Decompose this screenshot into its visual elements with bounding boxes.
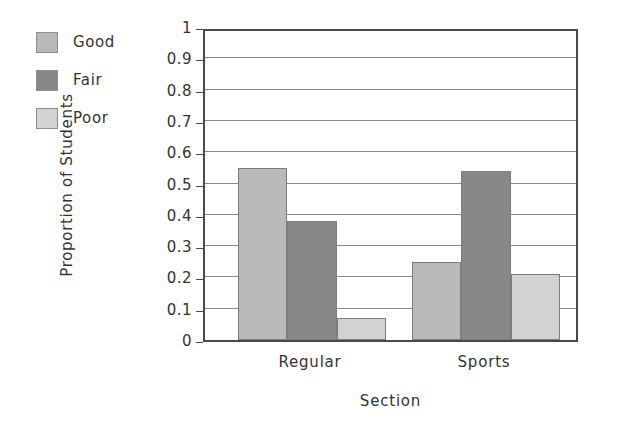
y-tick-label: 0.4 bbox=[122, 207, 192, 225]
y-tick-mark bbox=[196, 248, 203, 249]
bar-poor-sports bbox=[511, 274, 560, 340]
y-tick-label: 0.1 bbox=[122, 301, 192, 319]
legend-swatch-fair bbox=[36, 70, 58, 91]
bar-good-regular bbox=[238, 168, 287, 340]
x-tick-label-sports: Sports bbox=[410, 353, 558, 371]
legend-label-good: Good bbox=[73, 33, 115, 51]
y-tick-mark bbox=[196, 279, 203, 280]
y-tick-label: 0.7 bbox=[122, 113, 192, 131]
y-tick-mark bbox=[196, 342, 203, 343]
legend-swatch-good bbox=[36, 32, 58, 53]
y-tick-mark bbox=[196, 217, 203, 218]
y-tick-label: 0.3 bbox=[122, 238, 192, 256]
plot-area bbox=[203, 29, 578, 342]
bar-fair-sports bbox=[461, 171, 510, 340]
y-tick-mark bbox=[196, 186, 203, 187]
y-tick-label: 0.6 bbox=[122, 144, 192, 162]
y-tick-label: 0.8 bbox=[122, 82, 192, 100]
bar-chart: Good Fair Poor Proportion of Students 10… bbox=[0, 0, 622, 426]
y-tick-mark bbox=[196, 29, 203, 30]
y-tick-mark bbox=[196, 311, 203, 312]
y-tick-mark bbox=[196, 92, 203, 93]
y-tick-label: 0.5 bbox=[122, 176, 192, 194]
bar-series-container bbox=[205, 31, 576, 340]
legend-swatch-poor bbox=[36, 108, 58, 129]
legend-label-poor: Poor bbox=[73, 109, 108, 127]
legend-label-fair: Fair bbox=[73, 71, 102, 89]
bar-poor-regular bbox=[337, 318, 386, 340]
y-axis-title: Proportion of Students bbox=[58, 60, 76, 310]
x-tick-label-regular: Regular bbox=[236, 353, 384, 371]
y-tick-label: 1 bbox=[122, 19, 192, 37]
y-tick-mark bbox=[196, 154, 203, 155]
y-tick-mark bbox=[196, 60, 203, 61]
bar-fair-regular bbox=[287, 221, 336, 340]
y-tick-label: 0.9 bbox=[122, 50, 192, 68]
y-tick-label: 0.2 bbox=[122, 269, 192, 287]
y-tick-label: 0 bbox=[122, 332, 192, 350]
y-tick-mark bbox=[196, 123, 203, 124]
x-axis-title: Section bbox=[203, 392, 578, 410]
bar-good-sports bbox=[412, 262, 461, 340]
